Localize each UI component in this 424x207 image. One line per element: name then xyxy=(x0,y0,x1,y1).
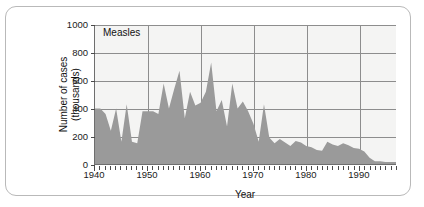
x-minor-tick-1985 xyxy=(332,166,333,170)
y-tick-mark-400 xyxy=(91,109,95,110)
x-minor-tick-1945 xyxy=(120,166,121,170)
y-tick-label-600: 600 xyxy=(52,76,88,85)
x-minor-tick-1954 xyxy=(168,166,169,170)
x-tick-label-1980: 1980 xyxy=(286,169,326,180)
y-tick-mark-1000 xyxy=(91,25,95,26)
x-minor-tick-1965 xyxy=(226,166,227,170)
y-tick-mark-600 xyxy=(91,81,95,82)
x-tick-label-1990: 1990 xyxy=(339,169,379,180)
figure-frame: Number of cases (thousands) Measles 0200… xyxy=(5,6,411,196)
y-tick-label-800: 800 xyxy=(52,48,88,57)
y-axis-label-wrap: Number of cases (thousands) xyxy=(36,25,70,165)
plot-area: Measles xyxy=(94,25,396,165)
x-minor-tick-1996 xyxy=(391,166,392,170)
x-tick-label-1940: 1940 xyxy=(74,169,114,180)
x-minor-tick-1975 xyxy=(279,166,280,170)
figure: Number of cases (thousands) Measles 0200… xyxy=(0,0,424,207)
y-tick-label-0: 0 xyxy=(52,160,88,169)
x-tick-label-1970: 1970 xyxy=(233,169,273,180)
x-minor-tick-1944 xyxy=(115,166,116,170)
x-minor-tick-1974 xyxy=(274,166,275,170)
y-tick-label-1000: 1000 xyxy=(52,20,88,29)
x-minor-tick-1964 xyxy=(221,166,222,170)
y-tick-label-400: 400 xyxy=(52,104,88,113)
x-minor-tick-1997 xyxy=(396,166,397,170)
y-tick-label-200: 200 xyxy=(52,132,88,141)
x-tick-label-1950: 1950 xyxy=(127,169,167,180)
y-axis-label-line1: Number of cases xyxy=(58,57,69,133)
area-fill xyxy=(95,63,396,164)
x-minor-tick-1995 xyxy=(385,166,386,170)
x-minor-tick-1984 xyxy=(327,166,328,170)
x-axis-ticks: 194019501960197019801990 xyxy=(94,166,396,180)
x-minor-tick-1955 xyxy=(173,166,174,170)
x-axis-label: Year xyxy=(94,189,396,200)
x-minor-tick-1994 xyxy=(380,166,381,170)
x-tick-label-1960: 1960 xyxy=(180,169,220,180)
y-tick-mark-200 xyxy=(91,137,95,138)
measles-area-series xyxy=(95,25,396,164)
y-tick-mark-800 xyxy=(91,53,95,54)
